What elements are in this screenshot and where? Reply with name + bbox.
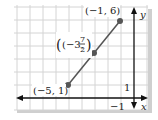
coordinate-plane: y x −1 1 (−5, 1) (−1, 6) ( (−3, 7 2 ) — [0, 0, 158, 120]
y-axis-label: y — [139, 9, 146, 20]
x-axis-label: x — [141, 101, 147, 112]
fraction-numerator: 7 — [80, 35, 85, 44]
paren-close: ) — [86, 37, 91, 53]
x-tick-label: −1 — [110, 101, 125, 112]
y-tick-label: 1 — [124, 82, 130, 93]
point-b — [117, 18, 123, 24]
paren-open: ( — [56, 37, 61, 53]
point-midpoint-label: ( (−3, 7 2 ) — [56, 32, 92, 58]
point-b-label: (−1, 6) — [85, 5, 120, 16]
fraction-denominator: 2 — [80, 45, 85, 54]
point-a-label: (−5, 1) — [33, 85, 68, 96]
